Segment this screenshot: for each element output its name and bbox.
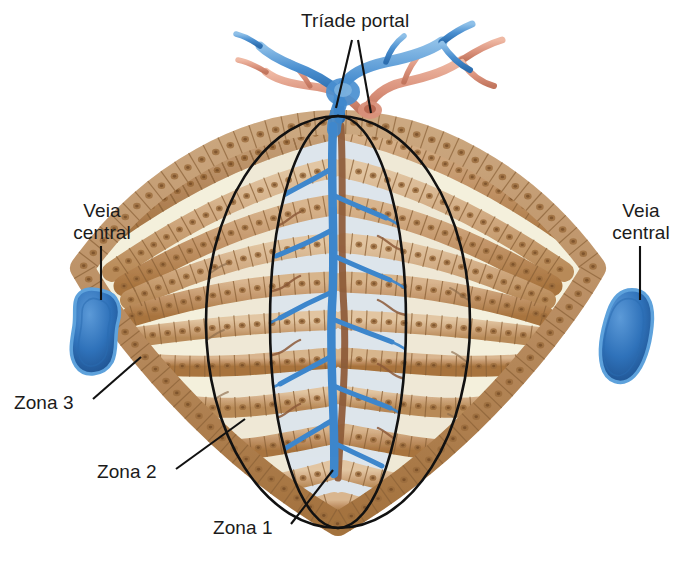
label-central-vein-right: Veia central — [598, 200, 676, 244]
label-zone-3: Zona 3 — [14, 392, 74, 414]
acinus-body — [71, 24, 652, 531]
label-zone-2: Zona 2 — [97, 461, 157, 483]
label-central-vein-left: Veia central — [59, 200, 145, 244]
label-portal-triad: Tríade portal — [301, 10, 409, 32]
central-vein-left — [71, 289, 119, 374]
label-zone-1: Zona 1 — [213, 517, 273, 539]
figure-canvas: Tríade portal Veia central Veia central … — [0, 0, 676, 563]
central-vein-right — [600, 290, 652, 383]
portal-triad-vessels — [236, 24, 502, 130]
